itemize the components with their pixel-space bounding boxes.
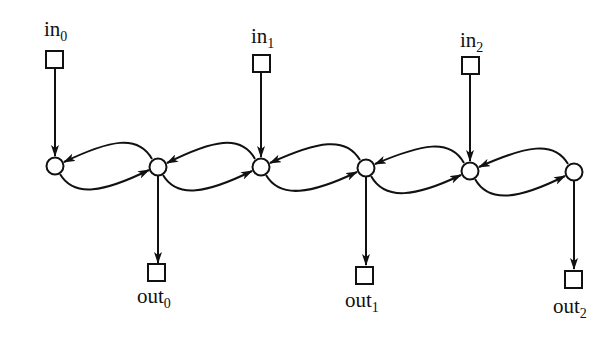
input-label-2: in2 — [460, 28, 483, 55]
backward-edge-1-0 — [64, 143, 152, 162]
output-square-1 — [356, 267, 373, 284]
output-label-1: out1 — [345, 288, 379, 315]
input-label-0: in0 — [44, 17, 67, 44]
node-5 — [566, 164, 583, 181]
input-square-1 — [253, 55, 270, 72]
node-2 — [253, 159, 270, 176]
output-square-2 — [565, 271, 582, 288]
input-label-1: in1 — [251, 24, 274, 51]
forward-edge-2-3 — [266, 172, 357, 191]
chain-diagram: in0 in1 in2 out0 out1 out2 — [0, 0, 610, 338]
backward-edge-2-1 — [167, 143, 255, 163]
input-square-0 — [46, 51, 63, 68]
output-label-0: out0 — [137, 284, 171, 311]
output-label-2: out2 — [553, 294, 587, 321]
output-square-0 — [148, 264, 165, 281]
node-3 — [358, 160, 375, 177]
input-square-2 — [462, 57, 479, 74]
forward-edge-3-4 — [371, 175, 461, 193]
forward-edge-0-1 — [60, 170, 149, 189]
backward-edge-3-2 — [270, 144, 360, 163]
forward-edge-4-5 — [475, 176, 565, 196]
backward-edge-5-4 — [479, 148, 568, 167]
node-4 — [462, 163, 479, 180]
node-1 — [150, 159, 167, 176]
node-0 — [47, 158, 64, 175]
backward-edge-4-3 — [375, 147, 464, 164]
forward-edge-1-2 — [163, 171, 252, 190]
